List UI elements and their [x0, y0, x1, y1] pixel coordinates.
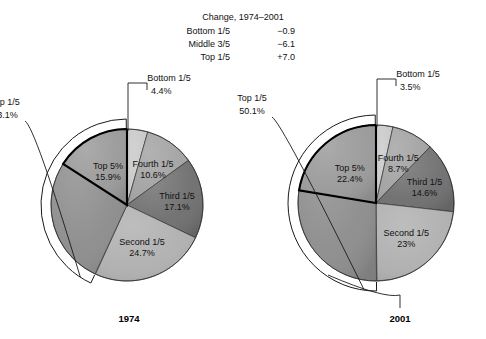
slice-name-fourth-1-5: Fourth 1/5 [133, 159, 174, 169]
pie-group: Fourth 1/510.6%Third 1/517.1%Second 1/52… [0, 69, 459, 308]
callout-bottom-1-5-name: Bottom 1/5 [147, 73, 191, 83]
slice-name-top-5pct: Top 5% [93, 161, 123, 171]
slice-name-third-1-5: Third 1/5 [407, 177, 443, 187]
chart-year-2001: 2001 [389, 313, 411, 324]
slice-name-top-5pct: Top 5% [335, 163, 365, 173]
slice-pct-second-1-5: 23% [397, 239, 415, 249]
slice-pct-third-1-5: 17.1% [164, 202, 190, 212]
header-row-value-2: +7.0 [277, 52, 295, 62]
pie-figure: Change, 1974–2001 Bottom 1/5 −0.9 Middle… [0, 0, 486, 339]
slice-pct-top-5pct: 15.9% [95, 172, 121, 182]
callout-leader-bottom-1-5 [377, 79, 396, 127]
slice-pct-second-1-5: 24.7% [129, 248, 155, 258]
callout-top-1-5-pct: 50.1% [239, 106, 265, 116]
slice-name-second-1-5: Second 1/5 [119, 237, 165, 247]
slice-pct-fourth-1-5: 10.6% [140, 170, 166, 180]
slice-pct-fourth-1-5: 8.7% [388, 164, 409, 174]
callout-leader-bottom-1-5 [128, 83, 147, 131]
callout-bottom-1-5-name: Bottom 1/5 [396, 69, 440, 79]
header-title: Change, 1974–2001 [202, 12, 284, 22]
slice-name-second-1-5: Second 1/5 [384, 228, 430, 238]
callout-top-1-5-pct: 43.1% [0, 110, 18, 120]
header-block: Change, 1974–2001 Bottom 1/5 −0.9 Middle… [186, 12, 295, 62]
chart-year-1974: 1974 [118, 313, 140, 324]
callout-top-1-5-name: Top 1/5 [237, 93, 267, 103]
slice-name-third-1-5: Third 1/5 [159, 191, 195, 201]
slice-pct-top-5pct: 22.4% [337, 174, 363, 184]
slice-pct-third-1-5: 14.6% [412, 188, 438, 198]
slice-name-fourth-1-5: Fourth 1/5 [378, 153, 419, 163]
pie-chart-1974: Fourth 1/510.6%Third 1/517.1%Second 1/52… [0, 73, 208, 286]
header-row-label-2: Top 1/5 [200, 52, 230, 62]
pie-chart-2001: Fourth 1/58.7%Third 1/514.6%Second 1/523… [237, 69, 458, 291]
header-row-label-0: Bottom 1/5 [186, 26, 230, 36]
header-row-label-1: Middle 3/5 [188, 39, 230, 49]
header-row-value-0: −0.9 [277, 26, 295, 36]
figure-root: Change, 1974–2001 Bottom 1/5 −0.9 Middle… [0, 0, 486, 339]
callout-bottom-1-5-pct: 4.4% [151, 86, 172, 96]
header-row-value-1: −6.1 [277, 39, 295, 49]
callout-top-1-5-name: Top 1/5 [0, 97, 20, 107]
callout-bottom-1-5-pct: 3.5% [400, 82, 421, 92]
